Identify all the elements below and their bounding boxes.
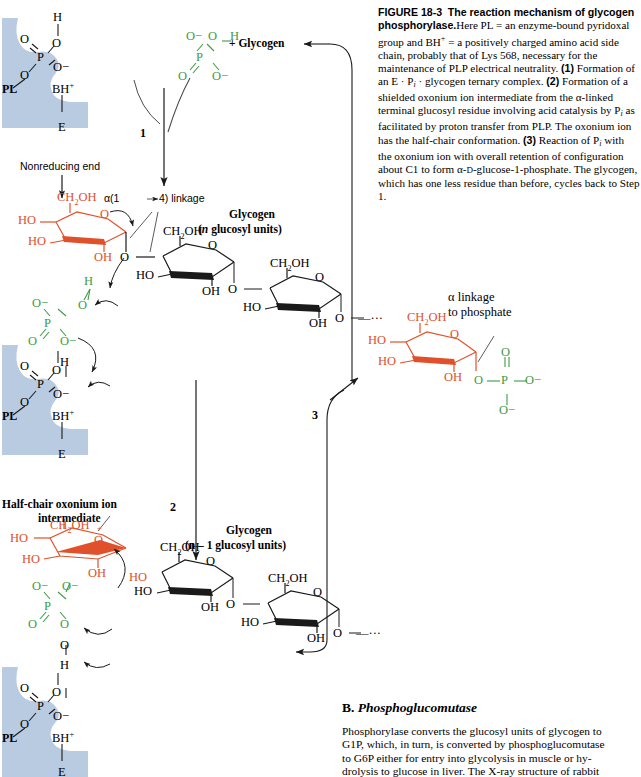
label-enzyme-bot: E	[58, 765, 66, 777]
ring3-o-top: O	[315, 270, 324, 285]
pi-top-o-h-o: O	[208, 29, 217, 44]
enzyme-surface-top	[2, 18, 88, 128]
label-nonreducing-end: Nonreducing end	[20, 160, 100, 172]
atom-p-mid: P	[37, 377, 44, 392]
g1p-ch2oh: CH2OH	[407, 310, 447, 327]
mid-h-green: H	[84, 274, 93, 289]
mid-pi-p: P	[44, 316, 51, 331]
label-bh-top: BH+	[52, 81, 74, 97]
section-b-line-4: drolysis to glucose in liver. The X-ray …	[342, 765, 641, 777]
bh-text: BH	[52, 82, 69, 96]
mid-pi-o-dbl: O	[28, 334, 37, 349]
label-bh-bot: BH+	[52, 730, 74, 746]
label-linkage-alpha: α(1	[104, 192, 119, 204]
section-b-heading: B. Phosphoglucomutase	[342, 700, 641, 716]
glycosidic-o-2-top: O	[228, 282, 237, 297]
alpha-linkage-leader	[478, 336, 494, 362]
step-number-1: 1	[140, 126, 146, 141]
top-sugar-ho-1: HO	[18, 213, 36, 228]
ring2-ho-top: HO	[136, 268, 154, 283]
bot-pi-o-3: O	[60, 617, 69, 632]
ring3-ho-top: HO	[243, 300, 261, 315]
label-enzyme-top: E	[58, 120, 66, 135]
label-enzyme-mid: E	[58, 447, 66, 462]
figure-18-3: H O O P O− O PL BH+ E O− O H P O O− + Gl…	[0, 0, 641, 777]
atom-o-top-pl: O	[20, 68, 29, 83]
electron-arrow-h-o-mid	[88, 382, 110, 387]
g1p-o-minus-r: O−	[525, 373, 541, 388]
pi-top-o-dbl: O	[178, 69, 187, 84]
sugar-ring-2-bottom	[263, 583, 361, 633]
top-sugar-oh: OH	[94, 250, 112, 265]
g1p-oh: OH	[444, 370, 462, 385]
electron-arrow-pi-bottom	[84, 628, 112, 634]
step-number-2: 2	[170, 500, 176, 515]
atom-o-minus-mid: O−	[53, 387, 69, 402]
section-b-line-3: to G6P either for entry into glycolysis …	[342, 752, 641, 765]
oxonium-oh: OH	[88, 566, 106, 581]
label-glycogen-n: Glycogen	[229, 208, 275, 220]
label-glycogen-n1: Glycogen	[226, 524, 272, 536]
section-b-line-1: Phosphorylase converts the glucosyl unit…	[342, 725, 641, 738]
atom-o-mid-dbl: O	[20, 359, 29, 374]
atom-o-top-oh: O	[52, 36, 61, 51]
label-alpha-linkage-2: to phosphate	[448, 305, 512, 320]
atom-o-bot-dbl: O	[20, 681, 29, 696]
label-pl-mid: PL	[2, 409, 17, 424]
top-sugar-ch2oh: CH2OH	[57, 190, 97, 207]
bh-text-mid: BH	[52, 409, 69, 423]
atom-o-bot-oh: O	[52, 685, 61, 700]
g1p-ho-1: HO	[368, 333, 386, 348]
oxonium-ho-2: HO	[22, 552, 40, 567]
top-sugar-ring-o: O	[100, 207, 109, 222]
g1p-product-arrow	[330, 378, 358, 400]
n-glucosyl-rest: glucosyl units)	[208, 223, 282, 235]
g1p-p: P	[501, 373, 508, 388]
atom-o-bot-pl: O	[20, 717, 29, 732]
caption-s7: Reaction of P	[536, 134, 599, 146]
label-half-chair-1: Half-chair oxonium ion	[2, 498, 117, 510]
glycosidic-o-3-top: O	[335, 311, 344, 326]
bh-charge: +	[69, 81, 74, 90]
bot-pi-o-dbl: O	[28, 617, 37, 632]
bot-ring1-ch2oh: CH2OH	[160, 540, 200, 557]
bot-pi-p: P	[44, 599, 51, 614]
ring3-ch2oh-top: CH2OH	[270, 256, 310, 273]
section-b-body: Phosphorylase converts the glucosyl unit…	[342, 725, 641, 777]
caption-step-1: (1)	[561, 62, 574, 74]
mid-pi-o-minus-1: O−	[32, 296, 48, 311]
g1p-o-minus-b: O−	[499, 403, 515, 418]
mid-pi-o-minus-2: O−	[60, 334, 76, 349]
linkage-leader-lines	[130, 199, 158, 252]
label-plus-glycogen: + Glycogen	[229, 37, 284, 49]
bot-pi-o-minus-1: O−	[32, 579, 48, 594]
figure-number: FIGURE 18-3	[378, 6, 442, 18]
g1p-o-dbl: O	[501, 345, 510, 360]
top-sugar-ho-2: HO	[28, 234, 46, 249]
step-number-3: 3	[312, 408, 318, 423]
mid-o-green: O	[78, 298, 87, 313]
g1p-o-link: O	[474, 373, 483, 388]
label-linkage-rest: 4) linkage	[159, 192, 205, 204]
bot-ring1-oh: OH	[201, 600, 219, 615]
bot-ring2-o: O	[313, 585, 322, 600]
ring3-oh-top: OH	[309, 316, 327, 331]
ring2-ch2oh-top: CH2OH	[163, 224, 203, 241]
oxonium-ring-o: O	[94, 533, 103, 548]
atom-p-top: P	[37, 50, 44, 65]
atom-o-top-dbl: O	[20, 32, 29, 47]
atom-o-mid-pl: O	[20, 395, 29, 410]
pi-top-o-minus-1: O−	[186, 29, 202, 44]
step-1-curve	[134, 80, 160, 124]
label-n1-glucosyl-units: (n – 1 glucosyl units)	[185, 539, 286, 551]
electron-arrow-o-minus-mid	[78, 338, 96, 372]
caption-step-2: (2)	[546, 75, 559, 87]
atom-h-top-plp: H	[53, 10, 62, 25]
bot-glycosidic-o-2: O	[333, 626, 342, 641]
ring2-o-top: O	[208, 238, 217, 253]
bot-o-black: O	[60, 638, 69, 653]
section-b: B. Phosphoglucomutase Phosphorylase conv…	[342, 700, 641, 777]
pi-entry-bond	[168, 78, 190, 132]
atom-o-minus-bot: O−	[53, 709, 69, 724]
g1p-sugar-red	[390, 323, 476, 372]
